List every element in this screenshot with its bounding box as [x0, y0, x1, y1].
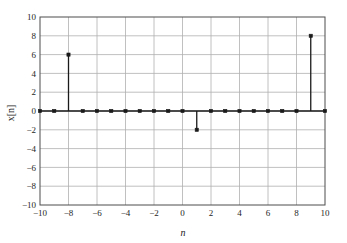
- x-tick-label: 2: [209, 208, 214, 218]
- y-tick-label: 4: [32, 69, 37, 79]
- y-axis-title: x[n]: [5, 105, 16, 122]
- x-tick-label: −6: [92, 208, 102, 218]
- data-point-marker: [67, 53, 70, 56]
- y-tick-label: −2: [26, 125, 36, 135]
- y-tick-label: −8: [26, 181, 36, 191]
- data-point-marker: [152, 109, 155, 112]
- data-point-marker: [323, 109, 326, 112]
- y-tick-label: −6: [26, 163, 36, 173]
- data-point-marker: [266, 109, 269, 112]
- data-point-marker: [209, 109, 212, 112]
- x-axis-title: n: [181, 227, 186, 238]
- data-point-marker: [181, 109, 184, 112]
- y-tick-label: −4: [26, 144, 36, 154]
- y-tick-label: 6: [32, 50, 37, 60]
- data-point-marker: [238, 109, 241, 112]
- x-tick-label: −2: [149, 208, 159, 218]
- data-point-marker: [281, 109, 284, 112]
- data-point-marker: [195, 128, 198, 131]
- data-point-marker: [295, 109, 298, 112]
- y-tick-label: 8: [32, 31, 37, 41]
- data-point-marker: [224, 109, 227, 112]
- y-tick-label: −10: [22, 200, 37, 210]
- y-tick-label: 2: [32, 87, 37, 97]
- data-point-marker: [38, 109, 41, 112]
- stem-plot-svg: −10−8−6−4−20246810 −10−8−6−4−20246810 n …: [0, 0, 347, 243]
- data-point-marker: [309, 34, 312, 37]
- x-tick-label: −4: [121, 208, 131, 218]
- data-point-marker: [110, 109, 113, 112]
- data-point-marker: [138, 109, 141, 112]
- data-point-marker: [252, 109, 255, 112]
- figure-background: [0, 0, 347, 243]
- data-point-marker: [95, 109, 98, 112]
- x-tick-label: 4: [237, 208, 242, 218]
- data-point-marker: [53, 109, 56, 112]
- data-point-marker: [124, 109, 127, 112]
- stem-plot-figure: −10−8−6−4−20246810 −10−8−6−4−20246810 n …: [0, 0, 347, 243]
- x-tick-label: 10: [321, 208, 331, 218]
- x-tick-label: −8: [64, 208, 74, 218]
- x-tick-label: 8: [294, 208, 299, 218]
- x-tick-label: 6: [266, 208, 271, 218]
- x-tick-label: 0: [180, 208, 185, 218]
- data-point-marker: [81, 109, 84, 112]
- y-tick-label: 0: [32, 106, 37, 116]
- data-point-marker: [167, 109, 170, 112]
- y-tick-label: 10: [27, 12, 37, 22]
